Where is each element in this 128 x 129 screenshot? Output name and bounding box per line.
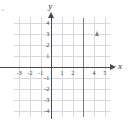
y-tick-label: -3 <box>39 97 49 103</box>
y-tick-label: 1 <box>39 53 49 59</box>
x-axis-label: x <box>118 62 122 71</box>
y-tick-label: -2 <box>39 86 49 92</box>
x-axis-arrow-icon <box>110 64 116 70</box>
coordinate-plane-figure: x y -3-2-11245 4321-1-2-3-4 <box>0 0 128 129</box>
y-axis <box>51 16 52 119</box>
x-axis <box>0 67 113 68</box>
y-tick-label: 2 <box>39 42 49 48</box>
y-axis-label: y <box>48 2 52 11</box>
y-tick-label: 3 <box>39 31 49 37</box>
y-axis-arrow-icon <box>48 12 54 18</box>
x-tick-label: 5 <box>99 70 111 76</box>
gridline-horizontal <box>14 45 110 46</box>
y-tick-label: -1 <box>39 75 49 81</box>
gridline-horizontal <box>14 89 110 90</box>
gridline-horizontal <box>14 100 110 101</box>
gridline-horizontal <box>14 56 110 57</box>
page-artifact-dot <box>2 9 4 11</box>
y-tick-label: 4 <box>39 20 49 26</box>
x-tick-label: 2 <box>67 70 79 76</box>
gridline-horizontal <box>14 23 110 24</box>
plotted-line-arrow-icon <box>95 31 99 36</box>
gridline-horizontal <box>14 78 110 79</box>
y-tick-label: -4 <box>39 108 49 114</box>
gridline-horizontal <box>14 111 110 112</box>
